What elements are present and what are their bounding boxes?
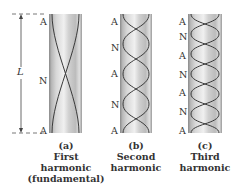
length-label: L bbox=[17, 66, 24, 77]
node-label: N bbox=[179, 32, 187, 42]
caption-line: harmonic bbox=[26, 162, 106, 173]
antinode-label: A bbox=[40, 126, 47, 136]
antinode-label: A bbox=[40, 17, 47, 27]
caption-line: (fundamental) bbox=[26, 173, 106, 184]
caption-letter: (a) bbox=[26, 140, 106, 151]
antinode-label: A bbox=[179, 126, 186, 136]
tube-c bbox=[188, 14, 222, 133]
tube-a bbox=[49, 14, 82, 133]
antinode-label: A bbox=[179, 88, 186, 98]
caption-letter: (b) bbox=[96, 140, 176, 151]
node-label: N bbox=[39, 76, 47, 86]
caption-line: First bbox=[26, 151, 106, 162]
antinode-label: A bbox=[179, 17, 186, 27]
caption-line: harmonic bbox=[96, 162, 176, 173]
caption-line: Second bbox=[96, 151, 176, 162]
caption-a: (a) First harmonic (fundamental) bbox=[26, 140, 106, 184]
caption-b: (b) Second harmonic bbox=[96, 140, 176, 173]
caption-line: harmonic bbox=[165, 162, 242, 173]
node-label: N bbox=[179, 70, 187, 80]
node-label: N bbox=[111, 43, 119, 53]
open-pipe-harmonics-diagram: L A N A A N A N A A N A N A N A (a) Firs… bbox=[0, 0, 242, 192]
node-label: N bbox=[111, 100, 119, 110]
antinode-label: A bbox=[111, 126, 118, 136]
antinode-label: A bbox=[111, 17, 118, 27]
caption-c: (c) Third harmonic bbox=[165, 140, 242, 173]
tube-b bbox=[120, 14, 152, 133]
caption-letter: (c) bbox=[165, 140, 242, 151]
caption-line: Third bbox=[165, 151, 242, 162]
antinode-label: A bbox=[179, 51, 186, 61]
node-label: N bbox=[179, 107, 187, 117]
antinode-label: A bbox=[111, 69, 118, 79]
